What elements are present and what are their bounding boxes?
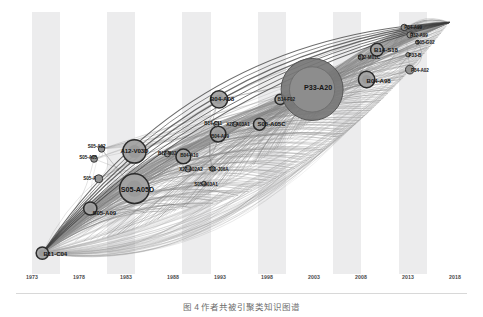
node-circle xyxy=(401,24,407,30)
x-axis-tick-label: 1983 xyxy=(120,274,132,280)
node-circle xyxy=(407,32,413,38)
graph-node[interactable] xyxy=(405,65,414,74)
graph-node[interactable] xyxy=(401,24,407,30)
graph-node[interactable] xyxy=(371,43,384,56)
graph-node[interactable] xyxy=(214,122,219,127)
x-axis-tick-label: 2003 xyxy=(308,274,320,280)
x-axis-tick-label: 1988 xyxy=(167,274,179,280)
graph-node[interactable] xyxy=(164,151,170,157)
graph-node[interactable] xyxy=(210,91,227,108)
graph-node[interactable] xyxy=(233,122,238,127)
node-circle xyxy=(405,65,414,74)
node-inner-core xyxy=(179,152,187,160)
node-inner-core xyxy=(87,205,94,212)
graph-node[interactable] xyxy=(281,58,343,120)
graph-node[interactable] xyxy=(210,166,215,171)
node-circle xyxy=(98,146,104,152)
x-axis-tick-label: 1973 xyxy=(26,274,38,280)
node-circle xyxy=(415,40,419,44)
graph-node[interactable] xyxy=(120,174,150,204)
x-axis-tick-label: 2008 xyxy=(355,274,367,280)
graph-node[interactable] xyxy=(358,71,374,87)
graph-node[interactable] xyxy=(407,32,413,38)
node-inner-core xyxy=(128,145,141,158)
node-inner-core xyxy=(126,181,142,197)
x-axis-tick-label: 1998 xyxy=(261,274,273,280)
graph-node[interactable] xyxy=(123,140,146,163)
node-inner-core xyxy=(362,75,371,84)
graph-node[interactable] xyxy=(91,155,98,162)
node-circle xyxy=(210,166,215,171)
figure-caption: 图 4 作者共被引聚类知识图谱 xyxy=(0,300,483,312)
x-axis: 1973197819831988199319982003200820132018 xyxy=(18,274,465,290)
graph-node[interactable] xyxy=(176,149,191,164)
node-circle xyxy=(164,151,170,157)
node-layer xyxy=(18,12,465,274)
graph-node[interactable] xyxy=(415,40,419,44)
x-axis-tick-label: 2018 xyxy=(449,274,461,280)
node-circle xyxy=(185,166,191,172)
node-inner-core xyxy=(39,250,46,257)
caption-divider xyxy=(16,293,467,294)
graph-node[interactable] xyxy=(253,118,265,130)
node-circle xyxy=(233,122,238,127)
node-circle xyxy=(214,122,219,127)
graph-node[interactable] xyxy=(210,126,226,142)
node-circle xyxy=(91,155,98,162)
figure-root: B11-C04S05-A09S05-AS05-A05S05-A02S05-A05… xyxy=(0,0,483,317)
node-inner-core xyxy=(289,67,334,112)
graph-node[interactable] xyxy=(95,175,103,183)
node-circle xyxy=(253,118,265,130)
node-inner-core xyxy=(373,46,380,53)
graph-node[interactable] xyxy=(358,54,364,60)
graph-node[interactable] xyxy=(84,202,97,215)
plot-area: B11-C04S05-A09S05-AS05-A05S05-A02S05-A05… xyxy=(18,12,465,274)
graph-node[interactable] xyxy=(406,53,410,57)
node-circle xyxy=(202,181,207,186)
x-axis-tick-label: 1978 xyxy=(73,274,85,280)
x-axis-tick-label: 2013 xyxy=(402,274,414,280)
node-circle xyxy=(95,175,103,183)
node-circle xyxy=(358,54,364,60)
node-circle xyxy=(406,53,410,57)
node-inner-core xyxy=(214,130,223,139)
node-inner-core xyxy=(214,95,223,104)
graph-node[interactable] xyxy=(98,146,104,152)
graph-node[interactable] xyxy=(202,181,207,186)
graph-node[interactable] xyxy=(185,166,191,172)
x-axis-tick-label: 1993 xyxy=(214,274,226,280)
graph-node[interactable] xyxy=(36,247,48,259)
